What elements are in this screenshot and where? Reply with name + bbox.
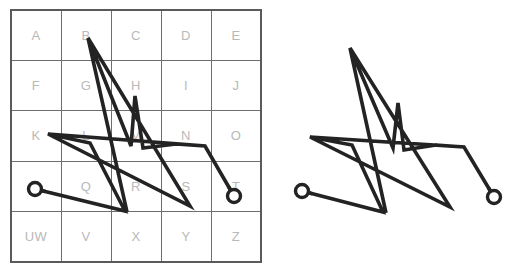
gesture-stroke-right-group — [296, 48, 501, 213]
right-panel-svg — [0, 0, 509, 271]
gesture-stroke-right — [302, 48, 494, 213]
stroke-end-marker-right — [488, 191, 501, 204]
figure-root: ABCDEFGHIJKLMNOPQRSTUWVXYZ — [0, 0, 509, 271]
gesture-only-panel — [0, 0, 509, 271]
caption-text — [34, 263, 234, 271]
stroke-start-marker-right — [296, 185, 309, 198]
